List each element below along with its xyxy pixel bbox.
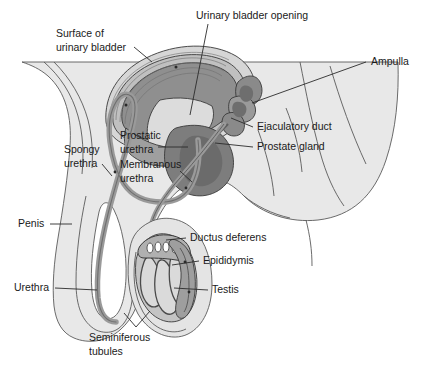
label-prostatic-urethra-line2: urethra bbox=[120, 143, 153, 155]
label-ductus-deferens: Ductus deferens bbox=[190, 231, 266, 243]
label-testis: Testis bbox=[212, 283, 239, 295]
bladder-marker-2 bbox=[125, 104, 128, 107]
anatomy-diagram-svg: Surface of urinary bladder Urinary bladd… bbox=[0, 0, 425, 370]
label-prostatic-urethra-line1: Prostatic bbox=[120, 129, 161, 141]
epididymis-marker-2 bbox=[188, 291, 191, 294]
label-urethra: Urethra bbox=[14, 281, 49, 293]
label-ampulla: Ampulla bbox=[371, 55, 409, 67]
label-spongy-urethra-line1: Spongy bbox=[64, 143, 100, 155]
bladder-marker-1 bbox=[175, 66, 178, 69]
ductus-marker-1 bbox=[185, 187, 188, 190]
male-reproductive-system-figure: Surface of urinary bladder Urinary bladd… bbox=[0, 0, 425, 370]
label-spongy-urethra-line2: urethra bbox=[64, 157, 97, 169]
label-membranous-urethra-line2: urethra bbox=[120, 172, 153, 184]
urethra-marker-1 bbox=[114, 171, 117, 174]
label-prostate-gland: Prostate gland bbox=[257, 140, 325, 152]
label-epididymis: Epididymis bbox=[203, 254, 254, 266]
pelvic-contour-5 bbox=[306, 220, 312, 266]
label-ejaculatory-duct: Ejaculatory duct bbox=[257, 120, 332, 132]
label-surface-of-urinary-bladder-line1: Surface of bbox=[56, 27, 104, 39]
label-membranous-urethra-line1: Membranous bbox=[120, 158, 181, 170]
label-seminiferous-tubules-line1: Seminiferous bbox=[89, 331, 150, 343]
label-surface-of-urinary-bladder-line2: urinary bladder bbox=[56, 41, 127, 53]
label-urinary-bladder-opening: Urinary bladder opening bbox=[196, 9, 308, 21]
label-penis: Penis bbox=[18, 217, 44, 229]
label-seminiferous-tubules-line2: tubules bbox=[89, 345, 123, 357]
